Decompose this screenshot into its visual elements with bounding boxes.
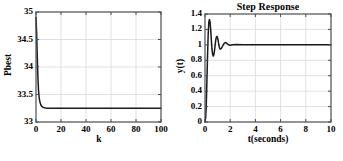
y-tick-label: 34.5	[2, 34, 33, 44]
y-tick-label: 0.8	[171, 54, 202, 64]
figure-container: Pbest k 0204060801003333.53434.535 Step …	[0, 0, 343, 161]
x-axis-label-right: t(seconds)	[205, 134, 331, 144]
y-tick-label: 1.4	[171, 8, 202, 18]
chart-pbest-convergence: Pbest k 0204060801003333.53434.535	[0, 0, 171, 161]
y-tick-label: 0.6	[171, 70, 202, 80]
y-tick-label: 34	[2, 61, 33, 71]
chart-step-response: Step Response y(t) t(seconds) 024681000.…	[171, 0, 343, 161]
y-tick-label: 33.5	[2, 89, 33, 99]
y-tick-label: 35	[2, 6, 33, 16]
y-tick-label: 0.4	[171, 85, 202, 95]
x-tick-label: 10	[311, 124, 343, 134]
y-tick-label: 1	[171, 39, 202, 49]
y-axis-label-right: y(t)	[175, 46, 185, 86]
y-tick-label: 0	[171, 116, 202, 126]
y-tick-label: 1.2	[171, 23, 202, 33]
y-tick-label: 33	[2, 116, 33, 126]
x-axis-label-left: k	[36, 134, 162, 144]
y-tick-label: 0.2	[171, 101, 202, 111]
